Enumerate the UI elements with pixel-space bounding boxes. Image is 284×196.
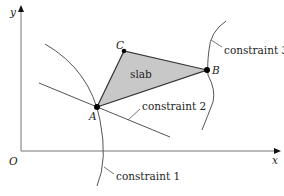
constraint-3-leader [211,40,222,47]
slab-label: slab [130,68,152,80]
constraint-1-label: constraint 1 [116,170,180,182]
origin-label: O [9,155,18,167]
point-a-label: A [88,110,97,122]
x-axis-label: x [272,154,278,166]
point-c-label: C [116,39,124,51]
slab-region [97,51,207,107]
constraint-3-label: constraint 3 [224,44,284,56]
point-b-marker [204,67,210,73]
constraint-2-label: constraint 2 [142,100,206,112]
y-axis-arrow-icon [18,5,24,12]
point-b-label: B [211,64,220,76]
y-axis-label: y [9,6,17,18]
constraint-1-leader [104,167,114,174]
constraint-2-leader [128,109,140,120]
diagram-canvas: y x O slab constraint 1 constraint 2 con… [0,0,284,196]
